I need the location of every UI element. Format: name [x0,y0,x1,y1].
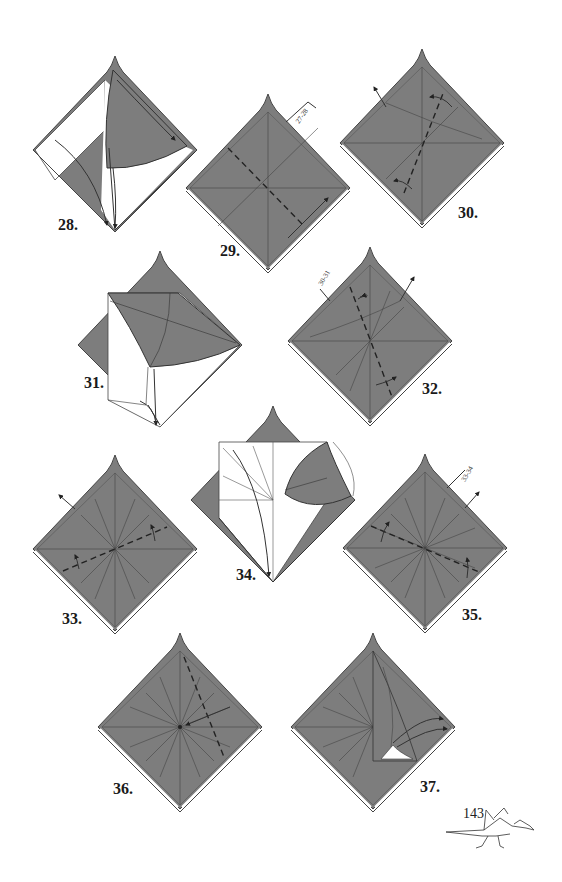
step-33-diagram [33,455,197,634]
step-label-34: 34. [236,566,256,584]
origami-diagram-page: 27-28 30-31 [0,0,562,882]
step-28-diagram [33,56,197,232]
step-label-37: 37. [420,778,440,796]
step-label-36: 36. [113,780,133,798]
step-label-30: 30. [458,204,478,222]
step-29-diagram [186,94,350,273]
step-35-diagram [343,454,507,633]
step-label-28: 28. [58,216,78,234]
step-32-reference: 30-31 [317,268,332,287]
step-29-reference: 27-28 [294,107,310,125]
step-30-diagram [340,49,504,228]
step-34-diagram [191,406,355,582]
dragon-mascot-icon [446,808,534,848]
step-label-31: 31. [84,374,104,392]
step-32-diagram [288,247,452,426]
page-number: 143 [463,806,484,822]
step-label-35: 35. [462,606,482,624]
diagrams-canvas: 27-28 30-31 [0,0,562,882]
step-35-reference: 33-34 [460,464,475,483]
step-label-33: 33. [62,610,82,628]
step-31-diagram [78,251,242,427]
step-label-29: 29. [220,242,240,260]
step-label-32: 32. [422,380,442,398]
